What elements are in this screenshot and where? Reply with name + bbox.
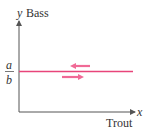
y-axis-label: Bass <box>26 7 49 19</box>
fraction-denominator: b <box>6 74 12 86</box>
phase-diagram <box>0 0 153 132</box>
right-arrow-icon <box>62 74 84 80</box>
fraction-numerator: a <box>6 59 12 71</box>
y-axis-var: y <box>17 7 22 19</box>
left-arrow-icon <box>70 63 90 69</box>
x-axis-var: x <box>137 106 142 118</box>
x-axis-label: Trout <box>106 117 132 129</box>
